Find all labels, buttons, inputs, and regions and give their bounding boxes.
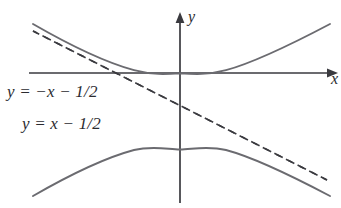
y-axis-arrow-icon (176, 12, 185, 23)
x-axis-label: x (331, 70, 338, 88)
asymptote-positive-label: y = x − 1/2 (22, 114, 101, 134)
asymptote-negative-label: y = −x − 1/2 (7, 82, 98, 102)
hyperbola-upper-branch (33, 24, 330, 74)
y-axis-label: y (188, 8, 195, 26)
hyperbola-lower-branch (33, 148, 330, 196)
hyperbola-figure (0, 0, 341, 208)
